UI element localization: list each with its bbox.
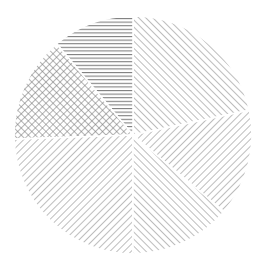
pie-chart-canvas — [0, 0, 266, 274]
pie-chart-figure — [0, 0, 266, 274]
pie-wedge-group — [14, 16, 252, 254]
